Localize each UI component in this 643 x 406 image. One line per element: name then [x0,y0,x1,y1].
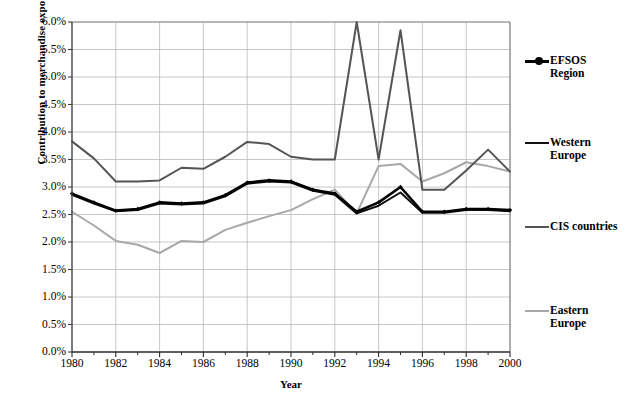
legend-line-swatch [524,221,550,233]
x-tick-label: 2000 [487,357,533,369]
chart-figure: Contribution to merchandise exports 0.0%… [0,0,643,406]
legend-label: CIS countries [550,220,617,233]
legend-line-swatch [524,55,550,67]
x-tick-label: 1980 [49,357,95,369]
legend-item-eastern-europe[interactable]: Eastern Europe [524,304,588,330]
legend-line-swatch [524,137,550,149]
x-tick-label: 1986 [180,357,226,369]
x-tick-label: 1992 [312,357,358,369]
legend-label: EFSOS Region [550,54,586,80]
x-tick-label: 1994 [356,357,402,369]
x-tick-label: 1990 [268,357,314,369]
legend-line-swatch [524,305,550,317]
legend-item-efsos-region[interactable]: EFSOS Region [524,54,586,80]
legend-label: Western Europe [550,136,591,162]
legend-diamond-marker [535,57,543,65]
legend-label: Eastern Europe [550,304,588,330]
x-tick-label: 1988 [224,357,270,369]
legend-item-western-europe[interactable]: Western Europe [524,136,591,162]
x-tick-label: 1982 [93,357,139,369]
x-tick-label: 1998 [443,357,489,369]
x-tick-label: 1996 [399,357,445,369]
legend-item-cis-countries[interactable]: CIS countries [524,220,617,233]
x-tick-label: 1984 [137,357,183,369]
x-axis-title: Year [72,378,510,390]
